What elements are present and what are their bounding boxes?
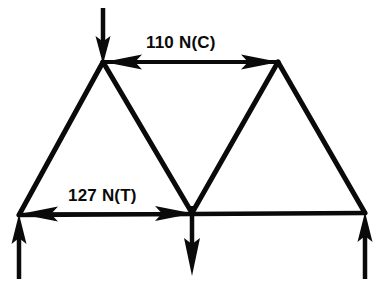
- top-chord-force-arrow: [104, 55, 279, 70]
- truss-force-diagram: 110 N(C) 127 N(T): [0, 0, 378, 288]
- bottom-chord-force-arrow: [20, 206, 193, 222]
- bottom-chord-force-label: 127 N(T): [68, 187, 137, 204]
- applied-load-center-arrow: [184, 206, 200, 276]
- member-right-rafter: [278, 62, 365, 213]
- applied-load-top-left-arrow: [96, 8, 111, 64]
- reaction-left-arrow: [12, 214, 27, 279]
- top-chord-force-label: 110 N(C): [146, 34, 216, 51]
- reaction-right-arrow: [358, 212, 373, 279]
- member-right-inner-diagonal: [192, 62, 278, 213]
